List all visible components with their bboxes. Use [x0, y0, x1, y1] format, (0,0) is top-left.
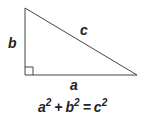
formula-a-exponent: 2	[45, 97, 52, 108]
pythagorean-diagram: b c a a2+b2=c2	[0, 0, 143, 120]
right-triangle	[25, 8, 137, 75]
side-label-b: b	[8, 35, 17, 51]
pythagorean-formula: a2+b2=c2	[38, 97, 108, 115]
formula-equals: =	[83, 99, 91, 115]
formula-b-exponent: 2	[73, 97, 80, 108]
side-label-a: a	[70, 77, 78, 93]
right-angle-marker	[25, 67, 33, 75]
formula-c-exponent: 2	[101, 97, 108, 108]
formula-a: a	[38, 99, 46, 115]
formula-c: c	[94, 99, 102, 115]
formula-plus: +	[54, 99, 62, 115]
side-label-c: c	[80, 22, 88, 38]
